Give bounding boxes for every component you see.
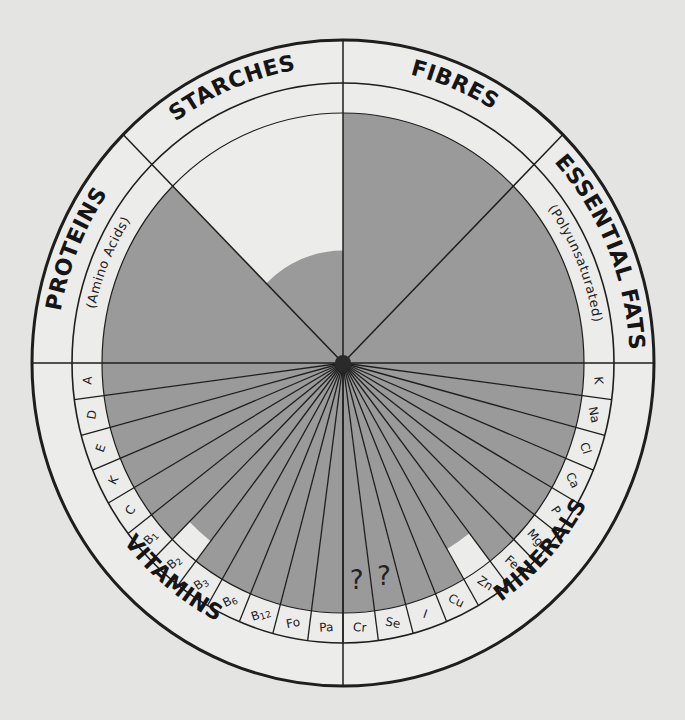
hub-dot xyxy=(335,355,351,371)
nutrient-label-cr: Cr xyxy=(353,620,367,635)
nutrient-label-pa: Pa xyxy=(319,620,334,635)
uncertain-mark: ? xyxy=(377,561,391,591)
nutrient-label-fo: Fo xyxy=(285,615,301,631)
nutrient-label-se: Se xyxy=(384,615,401,632)
uncertain-mark: ? xyxy=(350,565,364,595)
nutrient-wheel: PROTEINS(Amino Acids)STARCHESFIBRESESSEN… xyxy=(0,0,685,720)
